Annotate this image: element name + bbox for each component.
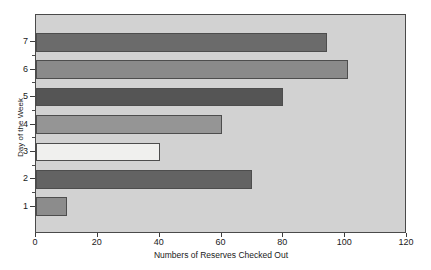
y-tick-label-2: 2 — [23, 174, 28, 183]
y-minor-tick — [32, 165, 35, 166]
y-tick-3 — [30, 151, 35, 152]
y-tick-2 — [30, 178, 35, 179]
x-tick-label-0: 0 — [32, 238, 37, 247]
x-tick-label-40: 40 — [154, 238, 164, 247]
x-tick-label-100: 100 — [337, 238, 352, 247]
bar-day-3 — [36, 143, 160, 162]
x-tick-label-80: 80 — [277, 238, 287, 247]
y-tick-label-1: 1 — [23, 201, 28, 210]
x-tick-label-120: 120 — [398, 238, 413, 247]
y-minor-tick — [32, 82, 35, 83]
y-tick-6 — [30, 69, 35, 70]
bar-day-7 — [36, 33, 327, 52]
y-tick-4 — [30, 124, 35, 125]
bar-day-2 — [36, 170, 252, 189]
y-minor-tick — [32, 55, 35, 56]
x-axis-title: Numbers of Reserves Checked Out — [35, 250, 407, 260]
y-axis: Day of the Week 1234567 — [0, 0, 35, 248]
x-axis: Numbers of Reserves Checked Out 02040608… — [35, 233, 407, 270]
bar-day-1 — [36, 197, 67, 216]
x-tick-label-60: 60 — [215, 238, 225, 247]
x-tick-label-20: 20 — [92, 238, 102, 247]
y-minor-tick — [32, 110, 35, 111]
y-tick-label-6: 6 — [23, 64, 28, 73]
bars-layer — [36, 15, 405, 232]
bar-day-4 — [36, 115, 222, 134]
y-tick-7 — [30, 41, 35, 42]
y-tick-1 — [30, 206, 35, 207]
y-minor-tick — [32, 192, 35, 193]
y-tick-label-3: 3 — [23, 146, 28, 155]
bar-chart-figure: Day of the Week 1234567 Numbers of Reser… — [0, 0, 431, 270]
bar-day-6 — [36, 60, 348, 79]
y-tick-5 — [30, 96, 35, 97]
y-tick-label-4: 4 — [23, 119, 28, 128]
plot-area — [35, 14, 406, 233]
bar-day-5 — [36, 88, 283, 107]
y-tick-label-7: 7 — [23, 37, 28, 46]
y-minor-tick — [32, 137, 35, 138]
y-tick-label-5: 5 — [23, 92, 28, 101]
